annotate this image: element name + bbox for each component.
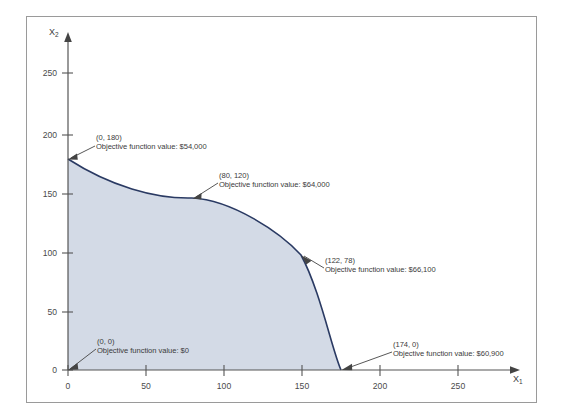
annotation-objective-80-120: Objective function value: $64,000 [219,180,330,189]
y-axis-arrowhead [64,32,72,42]
x-axis-title: X1 [513,374,523,384]
annotation-vertex-122-78: (122, 78) Objective function value: $66,… [325,256,436,275]
y-tick-label-150: 150 [33,189,57,199]
annotation-coord-80-120: (80, 120) [219,171,330,180]
annotation-vertex-80-120: (80, 120) Objective function value: $64,… [219,171,330,190]
annotation-objective-0-180: Objective function value: $54,000 [96,142,207,151]
y-axis-title-subscript: 2 [55,31,59,38]
annotation-objective-0-0: Objective function value: $0 [97,346,189,355]
annotation-coord-0-0: (0, 0) [97,337,189,346]
x-tick-label-250: 250 [448,381,468,391]
y-tick-label-50: 50 [33,307,57,317]
figure-container: X2 X1 250 200 150 100 50 0 0 50 100 150 … [0,0,561,417]
annotation-vertex-174-0: (174, 0) Objective function value: $60,9… [393,340,504,359]
annotation-objective-174-0: Objective function value: $60,900 [393,349,504,358]
annotation-vertex-0-180: (0, 180) Objective function value: $54,0… [96,133,207,152]
x-tick-label-150: 150 [292,381,312,391]
y-tick-label-200: 200 [33,130,57,140]
annotation-coord-122-78: (122, 78) [325,256,436,265]
annotation-coord-0-180: (0, 180) [96,133,207,142]
x-axis-arrowhead [510,366,520,374]
y-axis-title: X2 [49,27,59,37]
arrowhead-0-180 [68,154,78,160]
annotation-coord-174-0: (174, 0) [393,340,504,349]
x-tick-label-200: 200 [370,381,390,391]
y-tick-label-250: 250 [33,68,57,78]
arrowhead-174-0 [342,364,353,370]
x-tick-label-100: 100 [214,381,234,391]
x-tick-label-50: 50 [136,381,156,391]
annotation-vertex-0-0: (0, 0) Objective function value: $0 [97,337,189,356]
y-tick-label-100: 100 [33,248,57,258]
annotation-objective-122-78: Objective function value: $66,100 [325,265,436,274]
x-tick-label-0: 0 [58,381,78,391]
y-tick-label-0: 0 [33,365,57,375]
x-axis-title-subscript: 1 [519,378,523,385]
arrowhead-80-120 [193,193,202,200]
